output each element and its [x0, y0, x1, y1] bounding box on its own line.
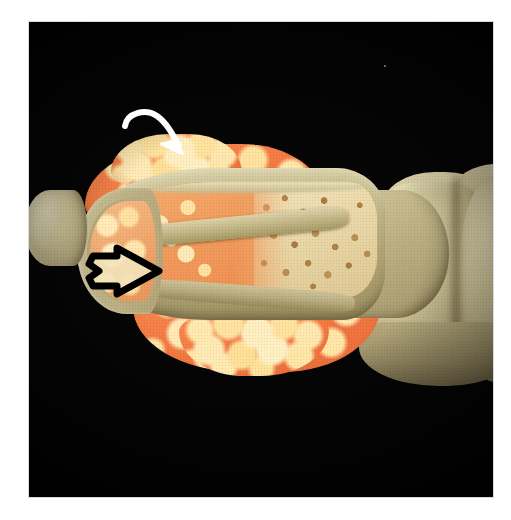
marrow-transition-seam: [243, 182, 290, 298]
adjacent-bone-fragment: [29, 190, 87, 266]
dust-speck: [384, 65, 386, 67]
illustration-plate: [29, 22, 493, 497]
metacarpal-underhang: [359, 322, 493, 386]
block-arrow-icon: [87, 244, 163, 300]
figure-root: [0, 0, 511, 520]
curved-arrow-icon: [121, 104, 207, 166]
